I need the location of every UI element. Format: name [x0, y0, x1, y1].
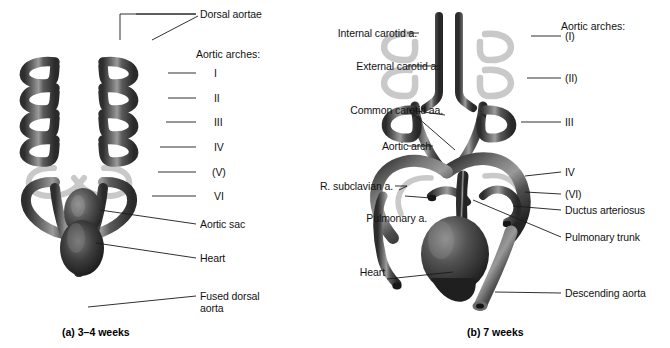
panel-a-arches-heading: Aortic arches: — [196, 48, 260, 60]
label-external-carotid: External carotid a. — [293, 60, 439, 72]
label-arch-4: IV — [214, 141, 224, 153]
label-descending-aorta: Descending aorta — [565, 287, 646, 299]
label-common-carotid: Common carotid aa. — [293, 104, 443, 116]
panel-b-caption: (b) 7 weeks — [467, 326, 524, 338]
label-arch-2: II — [214, 92, 220, 104]
label-arch-1: I — [214, 67, 217, 79]
label-internal-carotid: Internal carotid a. — [293, 27, 417, 39]
label-arch-6: VI — [214, 190, 224, 202]
label-arch-2-b: (II) — [565, 72, 577, 84]
figure-aortic-arch-development: Aortic arches: Dorsal aortae I II III IV… — [0, 0, 670, 348]
label-pulmonary-trunk: Pulmonary trunk — [565, 231, 640, 243]
label-r-subclavian: R. subclavian a. — [293, 180, 393, 192]
label-pulmonary-a: Pulmonary a. — [293, 212, 427, 224]
label-aortic-sac: Aortic sac — [200, 218, 245, 230]
label-fused-dorsal-aorta: Fused dorsal aorta — [200, 290, 278, 315]
panel-a-artwork — [0, 0, 335, 348]
label-arch-5: (V) — [212, 166, 226, 178]
label-aortic-arch: Aortic arch — [293, 140, 431, 152]
panel-b-7-weeks: Aortic arches: Internal carotid a. Exter… — [335, 0, 670, 348]
label-arch-3: III — [214, 116, 222, 128]
ductus-arteriosus-vessel — [483, 190, 517, 222]
label-arch-4-b: IV — [565, 166, 575, 178]
panel-a-3-4-weeks: Aortic arches: Dorsal aortae I II III IV… — [0, 0, 335, 348]
label-arch-1-b: (I) — [565, 30, 575, 42]
label-heart-b: Heart — [293, 266, 385, 278]
label-arch-3-b: III — [565, 116, 573, 128]
panel-a-caption: (a) 3–4 weeks — [62, 326, 130, 338]
label-ductus-arteriosus: Ductus arteriosus — [565, 204, 645, 216]
label-heart: Heart — [200, 252, 225, 264]
label-dorsal-aortae: Dorsal aortae — [200, 8, 262, 20]
label-arch-6-b: (VI) — [565, 188, 582, 200]
